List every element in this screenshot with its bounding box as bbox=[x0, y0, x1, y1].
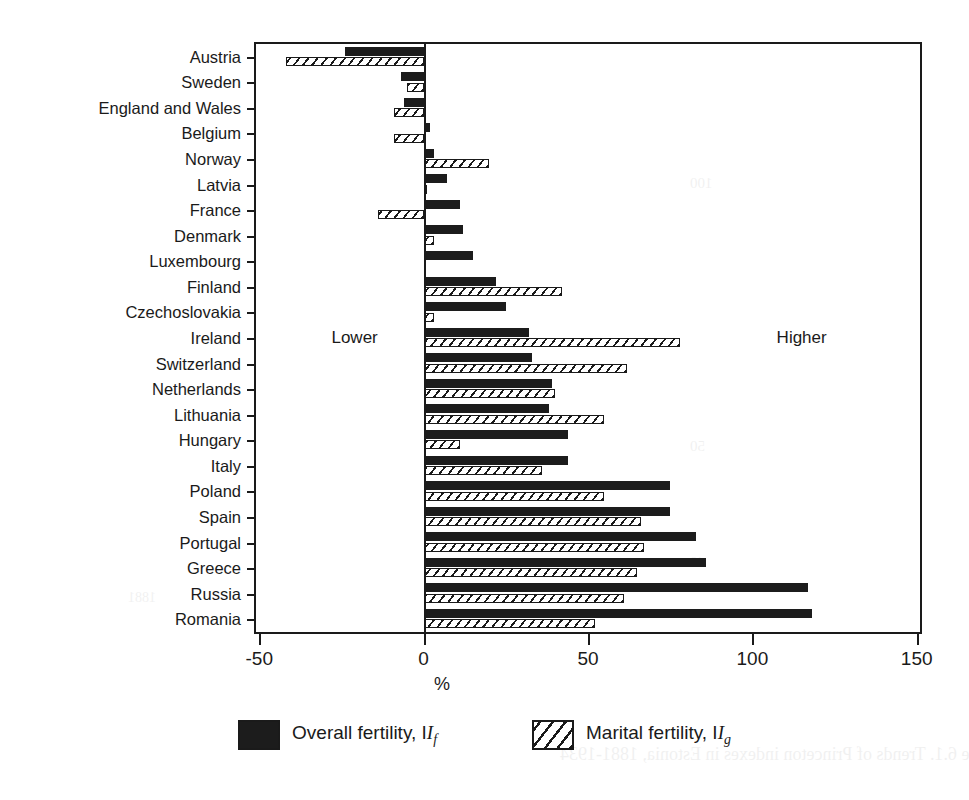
x-axis-tick-label: 150 bbox=[901, 648, 933, 670]
annotation-lower: Lower bbox=[331, 328, 377, 348]
y-axis-label: England and Wales bbox=[99, 100, 241, 117]
legend-item-overall-fertility: Overall fertility, IIf bbox=[238, 720, 437, 750]
legend-swatch-hatch-icon bbox=[532, 720, 574, 750]
y-axis-label: Denmark bbox=[174, 227, 241, 244]
bar-overall-fertility bbox=[424, 456, 569, 465]
bar-overall-fertility bbox=[424, 302, 506, 311]
x-axis-tick bbox=[424, 634, 426, 645]
zero-reference-line bbox=[424, 44, 426, 632]
bar-row: England and Wales bbox=[256, 95, 920, 121]
y-axis-label: Greece bbox=[187, 560, 241, 577]
y-axis-tick bbox=[247, 440, 256, 442]
annotation-higher: Higher bbox=[777, 328, 827, 348]
bar-row: Hungary bbox=[256, 427, 920, 453]
y-axis-tick bbox=[247, 517, 256, 519]
legend-text-overall: Overall fertility, I bbox=[292, 722, 427, 743]
bar-marital-fertility bbox=[378, 210, 424, 219]
bar-overall-fertility bbox=[424, 404, 549, 413]
bar-marital-fertility bbox=[424, 159, 490, 168]
bar-overall-fertility bbox=[424, 251, 473, 260]
x-axis: -50050100150 bbox=[254, 634, 922, 635]
bar-marital-fertility bbox=[424, 338, 680, 347]
bar-marital-fertility bbox=[424, 287, 562, 296]
bar-overall-fertility bbox=[345, 47, 424, 56]
y-axis-label: Netherlands bbox=[152, 381, 241, 398]
bar-overall-fertility bbox=[424, 353, 532, 362]
y-axis-label: Lithuania bbox=[174, 406, 241, 423]
bar-overall-fertility bbox=[424, 379, 552, 388]
bar-row: Italy bbox=[256, 453, 920, 479]
bar-overall-fertility bbox=[424, 430, 569, 439]
legend-subscript-g: g bbox=[724, 732, 731, 747]
y-axis-tick bbox=[247, 364, 256, 366]
y-axis-tick bbox=[247, 236, 256, 238]
y-axis-tick bbox=[247, 415, 256, 417]
bar-row: Latvia bbox=[256, 172, 920, 198]
bar-marital-fertility bbox=[394, 108, 424, 117]
bar-overall-fertility bbox=[404, 98, 424, 107]
y-axis-tick bbox=[247, 568, 256, 570]
y-axis-label: Russia bbox=[191, 585, 241, 602]
y-axis-label: Latvia bbox=[197, 176, 241, 193]
y-axis-label: Romania bbox=[175, 611, 241, 628]
y-axis-label: France bbox=[190, 202, 241, 219]
y-axis-tick bbox=[247, 466, 256, 468]
bar-row: Portugal bbox=[256, 530, 920, 556]
y-axis-tick bbox=[247, 185, 256, 187]
y-axis-label: Austria bbox=[190, 49, 241, 66]
bar-row: Romania bbox=[256, 606, 920, 632]
bar-row: Sweden bbox=[256, 70, 920, 96]
bar-overall-fertility bbox=[424, 481, 671, 490]
bar-overall-fertility bbox=[401, 72, 424, 81]
y-axis-tick bbox=[247, 594, 256, 596]
chart-legend: Overall fertility, IIf Marital fertility… bbox=[0, 720, 969, 750]
y-axis-tick bbox=[247, 543, 256, 545]
bar-marital-fertility bbox=[424, 594, 625, 603]
bar-overall-fertility bbox=[424, 558, 707, 567]
y-axis-tick bbox=[247, 108, 256, 110]
x-axis-tick bbox=[917, 634, 919, 645]
bar-row: Luxembourg bbox=[256, 249, 920, 275]
y-axis-label: Switzerland bbox=[156, 355, 241, 372]
bar-row: Spain bbox=[256, 504, 920, 530]
plot-area: AustriaSwedenEngland and WalesBelgiumNor… bbox=[254, 42, 922, 634]
bar-marital-fertility bbox=[424, 543, 644, 552]
y-axis-label: Poland bbox=[190, 483, 241, 500]
y-axis-tick bbox=[247, 619, 256, 621]
bar-row: Belgium bbox=[256, 121, 920, 147]
y-axis-label: Czechoslovakia bbox=[125, 304, 241, 321]
bar-marital-fertility bbox=[424, 364, 628, 373]
bar-overall-fertility bbox=[424, 328, 529, 337]
bar-marital-fertility bbox=[424, 466, 542, 475]
y-axis-label: Belgium bbox=[181, 125, 241, 142]
bar-marital-fertility bbox=[286, 57, 424, 66]
bar-marital-fertility bbox=[424, 619, 595, 628]
y-axis-tick bbox=[247, 57, 256, 59]
bar-row: France bbox=[256, 197, 920, 223]
bar-row: Switzerland bbox=[256, 351, 920, 377]
bar-row: Lithuania bbox=[256, 402, 920, 428]
x-axis-title: % bbox=[0, 674, 969, 695]
bar-row: Greece bbox=[256, 555, 920, 581]
y-axis-label: Italy bbox=[211, 458, 241, 475]
y-axis-label: Norway bbox=[185, 151, 241, 168]
bar-marital-fertility bbox=[407, 83, 423, 92]
bar-overall-fertility bbox=[424, 277, 496, 286]
bar-row: Poland bbox=[256, 479, 920, 505]
legend-subscript-f: f bbox=[433, 732, 437, 747]
y-axis-label: Ireland bbox=[191, 330, 241, 347]
bar-overall-fertility bbox=[424, 174, 447, 183]
x-axis-tick bbox=[259, 634, 261, 645]
x-axis-tick-label: -50 bbox=[246, 648, 273, 670]
bar-marital-fertility bbox=[424, 517, 641, 526]
bar-overall-fertility bbox=[424, 225, 463, 234]
legend-item-marital-fertility: Marital fertility, IIg bbox=[532, 720, 731, 750]
y-axis-tick bbox=[247, 389, 256, 391]
y-axis-tick bbox=[247, 133, 256, 135]
bar-marital-fertility bbox=[424, 568, 638, 577]
y-axis-label: Finland bbox=[187, 279, 241, 296]
bar-row: Austria bbox=[256, 44, 920, 70]
x-axis-tick bbox=[588, 634, 590, 645]
bar-row: Netherlands bbox=[256, 376, 920, 402]
bar-chart: AustriaSwedenEngland and WalesBelgiumNor… bbox=[0, 0, 969, 800]
